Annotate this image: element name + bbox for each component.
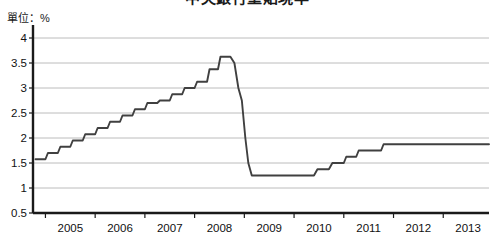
x-tick-label-2010: 2010 bbox=[306, 222, 332, 234]
y-tick-label-3: 3 bbox=[21, 82, 27, 94]
x-tick-label-2006: 2006 bbox=[107, 222, 133, 234]
x-tick-label-2005: 2005 bbox=[57, 222, 83, 234]
x-tick-label-2013: 2013 bbox=[455, 222, 481, 234]
y-tick-label-0.5: 0.5 bbox=[11, 207, 27, 219]
y-tick-label-3.5: 3.5 bbox=[11, 57, 27, 69]
axis-spines-group bbox=[33, 25, 489, 213]
series-line-0 bbox=[35, 57, 489, 176]
chart-container: 中央銀行重貼現率 單位：% 0.511.522.533.54 200520062… bbox=[0, 0, 494, 247]
gridlines-group bbox=[33, 38, 489, 213]
x-tick-label-2009: 2009 bbox=[256, 222, 282, 234]
y-tick-label-1.5: 1.5 bbox=[11, 157, 27, 169]
data-series-group bbox=[35, 57, 489, 176]
x-tick-label-2012: 2012 bbox=[406, 222, 432, 234]
line-chart-plot: 0.511.522.533.54 20052006200720082009201… bbox=[0, 0, 494, 247]
y-tick-label-1: 1 bbox=[21, 182, 27, 194]
x-tick-label-2011: 2011 bbox=[356, 222, 381, 234]
y-tick-labels-group: 0.511.522.533.54 bbox=[11, 32, 28, 219]
x-tick-label-2008: 2008 bbox=[207, 222, 233, 234]
y-tick-label-4: 4 bbox=[21, 32, 28, 44]
y-tick-label-2.5: 2.5 bbox=[11, 107, 27, 119]
x-tick-label-2007: 2007 bbox=[157, 222, 183, 234]
x-tick-labels-group: 200520062007200820092010201120122013 bbox=[57, 222, 480, 234]
y-tick-label-2: 2 bbox=[21, 132, 27, 144]
